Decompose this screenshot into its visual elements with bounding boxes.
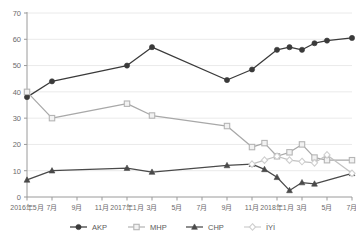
data-point-open-diamond <box>299 158 305 165</box>
x-axis-tick-label: 7月 <box>47 204 58 212</box>
legend-item-CHP[interactable]: CHP <box>186 223 224 232</box>
data-point-open-square <box>299 142 304 147</box>
data-point-open-square <box>24 89 29 94</box>
x-axis-tick-label: 11月 <box>95 204 109 212</box>
legend-item-AKP[interactable]: AKP <box>70 223 107 232</box>
series-line <box>27 92 352 160</box>
data-point-filled-circle <box>224 77 229 82</box>
legend-label: AKP <box>92 223 107 232</box>
data-point-open-square <box>224 123 229 128</box>
data-point-open-square <box>124 101 129 106</box>
y-axis-tick-label: 20 <box>13 140 21 149</box>
x-axis-tick-label: 3月 <box>297 204 308 212</box>
x-axis-tick-label: 9月 <box>72 204 83 212</box>
chart-legend: AKPMHPCHPİYİ <box>70 223 275 232</box>
data-point-filled-circle <box>274 47 279 52</box>
y-axis-tick-label: 50 <box>13 61 21 70</box>
data-point-filled-circle <box>287 45 292 50</box>
series-CHP <box>24 161 355 193</box>
series-MHP <box>24 89 354 163</box>
data-point-open-diamond <box>286 157 292 164</box>
legend-item-İYİ[interactable]: İYİ <box>244 223 275 232</box>
series-AKP <box>24 35 354 99</box>
data-point-filled-circle <box>24 95 29 100</box>
x-axis-tick-label: 9月 <box>222 204 233 212</box>
x-axis-tick-label: 5月 <box>322 204 333 212</box>
data-point-filled-triangle <box>274 174 280 179</box>
x-axis-tick-label: 7月 <box>197 204 208 212</box>
data-point-open-square <box>349 158 354 163</box>
series-İYİ <box>249 152 355 177</box>
x-axis-tick-label: 2016年5月 <box>10 203 43 212</box>
data-point-open-square <box>287 150 292 155</box>
y-axis-tick-label: 0 <box>17 193 21 202</box>
y-axis-tick-label: 40 <box>13 88 21 97</box>
y-axis-tick-label: 60 <box>13 35 21 44</box>
x-axis-tick-label: 2017年1月 <box>110 203 143 212</box>
data-point-open-diamond <box>261 157 267 164</box>
y-axis-tick-label: 30 <box>13 114 21 123</box>
data-point-filled-circle <box>299 47 304 52</box>
data-point-filled-circle <box>324 38 329 43</box>
data-point-open-diamond <box>249 224 255 231</box>
legend-label: CHP <box>208 223 224 232</box>
chart-container: 0102030405060702016年5月7月9月11月2017年1月3月5月… <box>0 0 356 240</box>
data-point-open-square <box>149 113 154 118</box>
data-point-filled-circle <box>312 41 317 46</box>
x-axis-tick-label: 2018年1月 <box>260 203 293 212</box>
legend-label: MHP <box>150 223 167 232</box>
data-point-filled-circle <box>149 45 154 50</box>
data-point-filled-circle <box>124 63 129 68</box>
data-point-open-square <box>134 224 139 229</box>
line-chart: 0102030405060702016年5月7月9月11月2017年1月3月5月… <box>0 0 356 240</box>
data-point-filled-circle <box>76 224 81 229</box>
data-point-filled-circle <box>249 67 254 72</box>
series-line <box>27 38 352 97</box>
x-axis-tick-label: 5月 <box>172 204 183 212</box>
data-point-filled-circle <box>49 79 54 84</box>
y-axis-tick-label: 10 <box>13 167 21 176</box>
data-point-open-square <box>49 115 54 120</box>
x-axis-tick-label: 7月 <box>347 204 356 212</box>
series-line <box>27 164 352 190</box>
data-point-filled-circle <box>349 35 354 40</box>
x-axis-tick-label: 3月 <box>147 204 158 212</box>
data-point-open-square <box>249 144 254 149</box>
legend-item-MHP[interactable]: MHP <box>128 223 167 232</box>
y-axis-tick-label: 70 <box>13 9 21 18</box>
data-point-open-square <box>262 140 267 145</box>
legend-label: İYİ <box>266 223 275 232</box>
x-axis-tick-label: 11月 <box>245 204 259 212</box>
